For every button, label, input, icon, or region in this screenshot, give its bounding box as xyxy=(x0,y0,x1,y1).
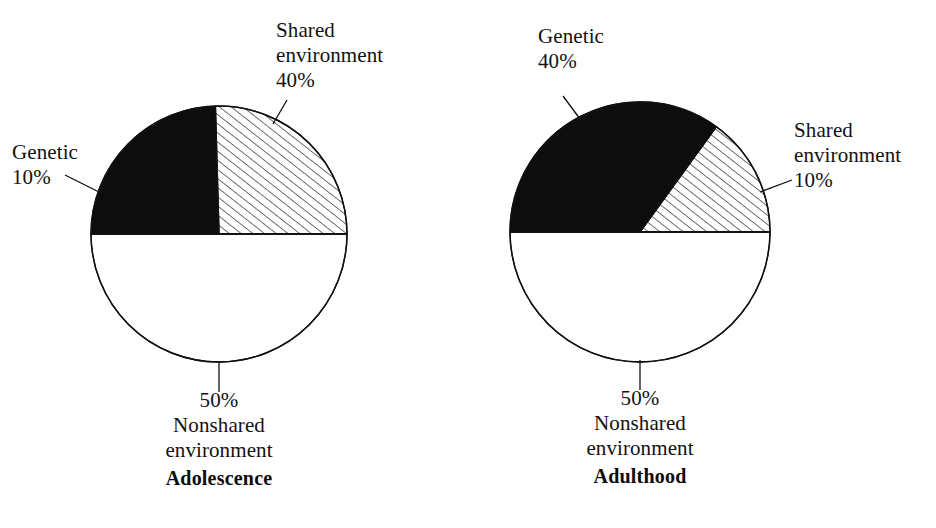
leader-adulthood-shared xyxy=(760,180,792,192)
leader-adolescence-shared xyxy=(273,100,287,124)
wedge-adolescence-genetic xyxy=(91,106,219,234)
figure-two-pie-charts: Shared environment 40% Genetic 10% 50% N… xyxy=(0,0,936,528)
label-adolescence-genetic: Genetic 10% xyxy=(12,140,78,190)
leader-adulthood-genetic xyxy=(563,96,583,123)
pie-adolescence xyxy=(65,100,347,392)
pie-adulthood xyxy=(510,96,792,390)
label-adolescence-nonshared-environment: 50% Nonshared environment xyxy=(139,388,299,463)
label-adolescence-shared-environment: Shared environment 40% xyxy=(276,18,383,93)
label-adulthood-nonshared-environment: 50% Nonshared environment xyxy=(560,386,720,461)
caption-adulthood: Adulthood xyxy=(560,464,720,488)
label-adulthood-shared-environment: Shared environment 10% xyxy=(794,118,901,193)
wedge-adolescence-shared xyxy=(215,106,347,234)
wedge-adulthood-nonshared xyxy=(510,232,770,362)
wedge-adolescence-nonshared xyxy=(91,234,347,362)
label-adulthood-genetic: Genetic 40% xyxy=(538,24,604,74)
caption-adolescence: Adolescence xyxy=(139,466,299,490)
